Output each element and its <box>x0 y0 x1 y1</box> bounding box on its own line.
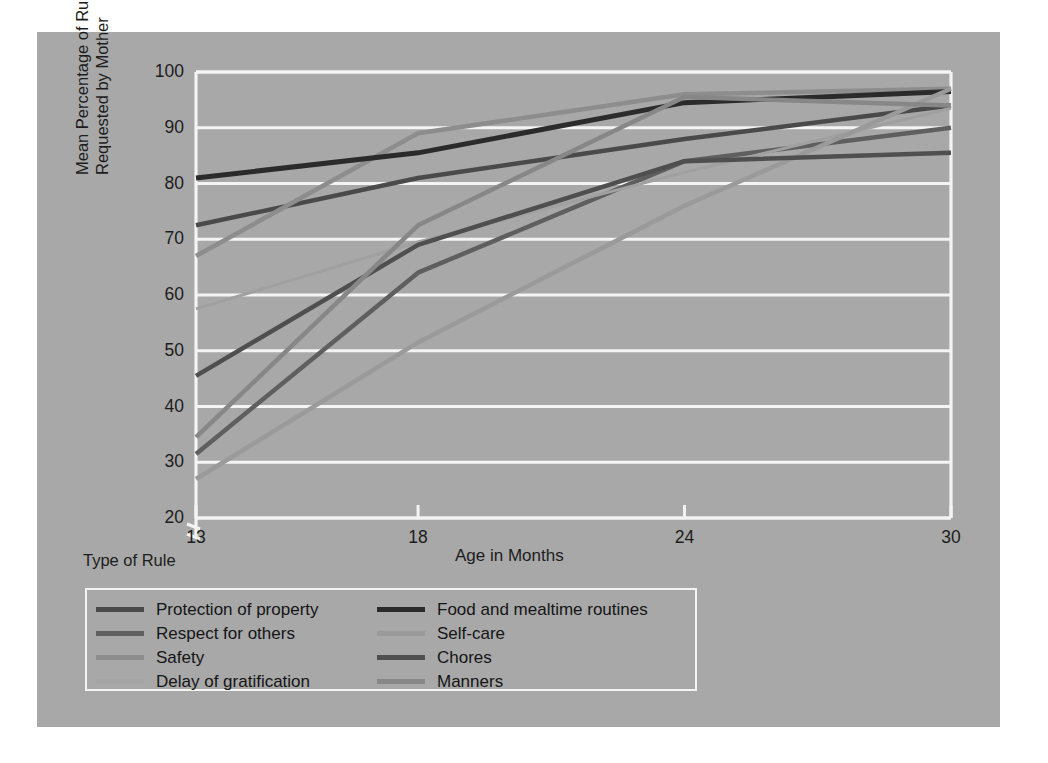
y-tick-label-100: 100 <box>138 61 184 82</box>
y-tick-label-60: 60 <box>138 284 184 305</box>
legend-box: Protection of propertyRespect for others… <box>85 588 697 691</box>
y-tick-label-30: 30 <box>138 451 184 472</box>
legend-item[interactable]: Food and mealtime routines <box>377 598 687 621</box>
legend-item-label: Manners <box>437 672 503 692</box>
y-tick-label-40: 40 <box>138 396 184 417</box>
legend-item[interactable]: Self-care <box>377 622 687 645</box>
legend-item-label: Food and mealtime routines <box>437 600 648 620</box>
legend-line-swatch-icon <box>377 631 425 636</box>
legend-line-swatch-icon <box>96 655 144 660</box>
series-line-self-care <box>196 89 951 479</box>
legend-title: Type of Rule <box>83 551 176 570</box>
legend-item-label: Delay of gratification <box>156 672 310 692</box>
x-tick-label-18: 18 <box>388 527 448 548</box>
legend-item-label: Safety <box>156 648 204 668</box>
legend-item-label: Chores <box>437 648 492 668</box>
x-tick-label-30: 30 <box>921 527 981 548</box>
legend-item[interactable]: Delay of gratification <box>96 670 386 693</box>
legend-column-right: Food and mealtime routinesSelf-careChore… <box>377 598 687 694</box>
legend-item[interactable]: Chores <box>377 646 687 669</box>
legend-line-swatch-icon <box>96 679 144 684</box>
legend-item[interactable]: Manners <box>377 670 687 693</box>
series-line-manners <box>196 97 951 437</box>
data-series-group <box>196 89 951 479</box>
legend-item[interactable]: Protection of property <box>96 598 386 621</box>
y-tick-label-20: 20 <box>138 507 184 528</box>
y-axis-title: Mean Percentage of Rules Requested by Mo… <box>72 0 112 175</box>
legend-line-swatch-icon <box>377 679 425 684</box>
legend-item-label: Protection of property <box>156 600 319 620</box>
legend-column-left: Protection of propertyRespect for others… <box>96 598 386 694</box>
legend-item-label: Self-care <box>437 624 505 644</box>
y-tick-label-50: 50 <box>138 340 184 361</box>
chart-page: 2030405060708090100 13182430 Mean Percen… <box>0 0 1048 763</box>
legend-item-label: Respect for others <box>156 624 295 644</box>
legend-line-swatch-icon <box>377 607 425 612</box>
legend-item[interactable]: Safety <box>96 646 386 669</box>
legend-item[interactable]: Respect for others <box>96 622 386 645</box>
y-tick-label-80: 80 <box>138 173 184 194</box>
x-tick-label-13: 13 <box>166 527 226 548</box>
y-tick-label-90: 90 <box>138 117 184 138</box>
series-line-safety <box>196 89 951 256</box>
x-tick-label-24: 24 <box>655 527 715 548</box>
legend-line-swatch-icon <box>96 631 144 636</box>
legend-line-swatch-icon <box>96 607 144 612</box>
legend-line-swatch-icon <box>377 655 425 660</box>
y-tick-label-70: 70 <box>138 228 184 249</box>
x-axis-title: Age in Months <box>455 546 564 566</box>
